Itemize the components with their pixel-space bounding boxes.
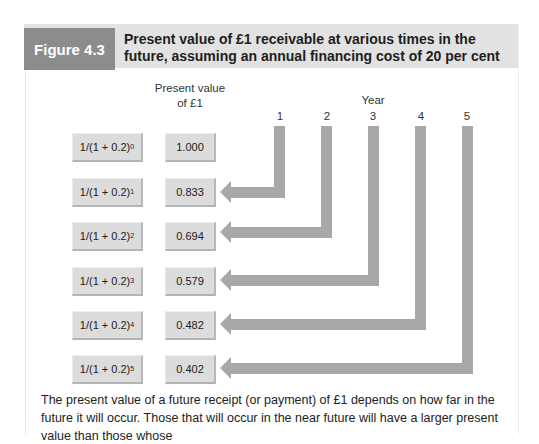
value-box-0: 1.000 xyxy=(165,133,216,162)
formula-box-0: 1/(1 + 0.2)0 xyxy=(72,133,143,162)
year-label-2: 2 xyxy=(317,110,337,122)
year-label-5: 5 xyxy=(457,110,477,122)
arrowhead-icon xyxy=(220,181,231,203)
value-box-1: 0.833 xyxy=(165,178,216,207)
present-value-header: Present value of £1 xyxy=(150,81,230,111)
formula-box-1: 1/(1 + 0.2)1 xyxy=(72,178,143,207)
year-label-4: 4 xyxy=(411,110,431,122)
arrowhead-icon xyxy=(220,313,231,335)
year-label-1: 1 xyxy=(270,110,290,122)
present-value-header-line2: of £1 xyxy=(150,96,230,111)
value-box-3: 0.579 xyxy=(165,267,216,296)
year-label-3: 3 xyxy=(363,110,383,122)
figure-label: Figure 4.3 xyxy=(24,28,115,70)
value-box-5: 0.402 xyxy=(165,355,216,384)
formula-box-3: 1/(1 + 0.2)3 xyxy=(72,267,143,296)
arrowhead-icon xyxy=(220,269,231,291)
figure-caption: The present value of a future receipt (o… xyxy=(41,391,521,444)
arrowhead-icon xyxy=(220,221,231,243)
present-value-header-line1: Present value xyxy=(150,81,230,96)
figure-title: Present value of £1 receivable at variou… xyxy=(124,31,514,65)
formula-box-5: 1/(1 + 0.2)5 xyxy=(72,355,143,384)
value-box-4: 0.482 xyxy=(165,311,216,340)
year-header: Year xyxy=(353,94,393,106)
arrowhead-icon xyxy=(220,357,231,379)
formula-box-2: 1/(1 + 0.2)2 xyxy=(72,222,143,251)
formula-box-4: 1/(1 + 0.2)4 xyxy=(72,311,143,340)
value-box-2: 0.694 xyxy=(165,222,216,251)
